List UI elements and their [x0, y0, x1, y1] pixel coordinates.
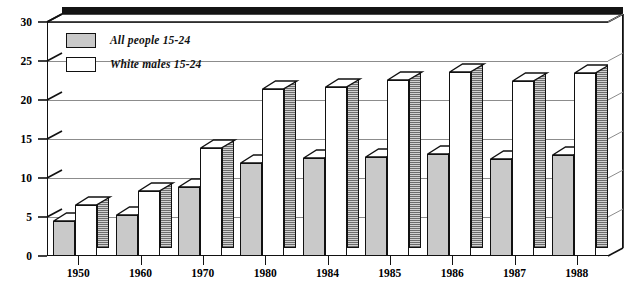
bar-front-face — [449, 72, 471, 256]
x-axis-tick — [203, 256, 204, 265]
y-axis-tick-label: 0 — [0, 250, 32, 262]
x-axis-tick — [515, 256, 516, 265]
y-axis-tick-label: 20 — [0, 94, 32, 106]
x-axis-tick-label: 1984 — [316, 267, 339, 279]
bar-front-face — [552, 155, 574, 256]
bar — [427, 22, 449, 256]
x-axis-tick-label: 1988 — [565, 267, 588, 279]
bar-front-face — [178, 187, 200, 256]
bar-front-face — [200, 148, 222, 256]
x-axis-tick-label: 1970 — [191, 267, 214, 279]
x-axis-tick — [78, 256, 79, 265]
bar-side-face — [534, 73, 546, 249]
bar — [490, 22, 512, 256]
legend-swatch-all-people — [66, 33, 96, 48]
bar — [449, 22, 471, 256]
bar — [325, 22, 347, 256]
legend-label-white-males: White males 15-24 — [110, 58, 202, 70]
y-axis-tick-label: 5 — [0, 211, 32, 223]
x-axis-tick-label: 1987 — [503, 267, 526, 279]
x-axis-tick — [577, 256, 578, 265]
chart-legend: All people 15-24 White males 15-24 — [66, 28, 296, 76]
y-axis-tick-label: 25 — [0, 55, 32, 67]
x-axis-tick — [265, 256, 266, 265]
bar — [303, 22, 325, 256]
bar-front-face — [574, 73, 596, 256]
chart-wall-right — [608, 14, 623, 248]
bar-front-face — [75, 205, 97, 256]
bar — [552, 22, 574, 256]
bar-front-face — [512, 81, 534, 257]
bar-chart: 051015202530 195019601970198019841985198… — [0, 0, 630, 287]
bar-front-face — [303, 158, 325, 256]
y-axis-tick-label: 10 — [0, 172, 32, 184]
bar-side-face — [471, 64, 483, 248]
x-axis-tick — [452, 256, 453, 265]
bar-side-face — [284, 81, 296, 248]
bar — [574, 22, 596, 256]
bar-front-face — [365, 157, 387, 256]
bar — [387, 22, 409, 256]
bar — [365, 22, 387, 256]
bar-front-face — [240, 163, 262, 256]
chart-wall-top-edge — [62, 7, 623, 14]
y-axis-tick-label: 30 — [0, 16, 32, 28]
bar-front-face — [490, 159, 512, 257]
x-axis-tick-label: 1950 — [67, 267, 90, 279]
bar-front-face — [387, 80, 409, 256]
x-axis-tick-label: 1980 — [254, 267, 277, 279]
x-axis-tick — [328, 256, 329, 265]
legend-label-all-people: All people 15-24 — [110, 34, 191, 46]
legend-swatch-white-males — [66, 57, 96, 72]
bar-side-face — [409, 72, 421, 248]
bar-front-face — [427, 154, 449, 256]
bar-front-face — [116, 215, 138, 256]
bar-front-face — [325, 87, 347, 256]
y-axis-tick-label: 15 — [0, 133, 32, 145]
x-axis-tick-label: 1986 — [441, 267, 464, 279]
bar-front-face — [138, 191, 160, 256]
x-axis-tick-label: 1985 — [378, 267, 401, 279]
x-axis-tick — [141, 256, 142, 265]
legend-item: All people 15-24 — [66, 28, 296, 52]
legend-item: White males 15-24 — [66, 52, 296, 76]
bar-front-face — [262, 89, 284, 256]
bar-side-face — [347, 79, 359, 248]
x-axis-tick-label: 1960 — [129, 267, 152, 279]
x-axis-tick — [390, 256, 391, 265]
bar-front-face — [53, 221, 75, 256]
bar-side-face — [596, 65, 608, 248]
bar — [512, 22, 534, 256]
bar-side-face — [222, 140, 234, 248]
